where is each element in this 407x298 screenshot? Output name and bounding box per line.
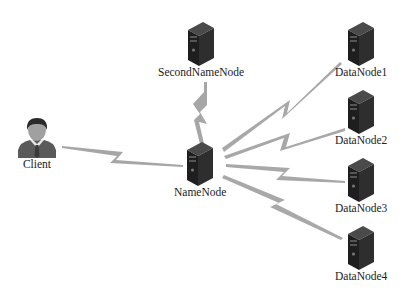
hdfs-diagram: Client SecondNameNode NameNode (0, 0, 407, 298)
node-label: Client (23, 158, 51, 171)
server-icon (346, 20, 376, 66)
server-icon (185, 140, 215, 186)
node-label: SecondNameNode (158, 66, 244, 79)
node-label: DataNode1 (335, 66, 387, 79)
link-namenode-datanode4 (222, 175, 343, 240)
node-client[interactable]: Client (14, 118, 60, 171)
server-icon (346, 224, 376, 270)
link-namenode-datanode2 (224, 128, 345, 159)
link-namenode-datanode3 (226, 164, 345, 183)
node-secondnamenode[interactable]: SecondNameNode (158, 20, 244, 79)
user-icon (14, 118, 60, 158)
node-datanode1[interactable]: DataNode1 (335, 20, 387, 79)
node-namenode[interactable]: NameNode (174, 140, 226, 199)
node-label: NameNode (174, 186, 226, 199)
server-icon (346, 88, 376, 134)
server-icon (346, 156, 376, 202)
node-label: DataNode2 (335, 134, 387, 147)
node-label: DataNode3 (335, 202, 387, 215)
node-datanode4[interactable]: DataNode4 (335, 224, 387, 283)
link-secondnamenode-namenode (193, 82, 207, 148)
node-datanode3[interactable]: DataNode3 (335, 156, 387, 215)
server-icon (186, 20, 216, 66)
link-client-namenode (62, 146, 183, 167)
node-datanode2[interactable]: DataNode2 (335, 88, 387, 147)
node-label: DataNode4 (335, 270, 387, 283)
